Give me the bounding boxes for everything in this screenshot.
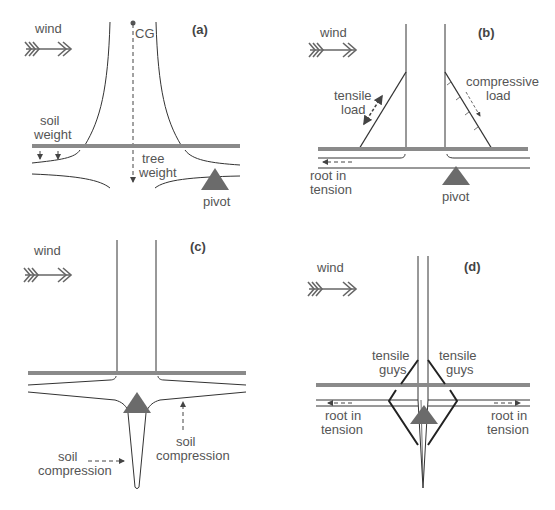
root-left-lower bbox=[28, 392, 128, 410]
tensile-guys-label: guys bbox=[446, 362, 474, 377]
compressive-load-label: load bbox=[486, 88, 511, 103]
pivot-label: pivot bbox=[203, 194, 231, 209]
panel-c: (c) wind soil compression soil compressi… bbox=[24, 239, 246, 489]
wind-arrow-icon bbox=[25, 42, 71, 56]
ground-surface bbox=[28, 371, 246, 375]
panel-label-c: (c) bbox=[190, 239, 206, 254]
soil-weight-label: soil bbox=[40, 113, 60, 128]
compressive-load-label: compressive bbox=[466, 74, 539, 89]
panel-a: (a) wind CG soil weight tree weight pivo… bbox=[25, 21, 240, 210]
wind-label: wind bbox=[319, 25, 347, 40]
soil-compression-label: soil bbox=[176, 434, 196, 449]
wind-label: wind bbox=[316, 260, 344, 275]
panel-label-b: (b) bbox=[478, 25, 495, 40]
wind-arrow-icon bbox=[24, 268, 71, 282]
tree-weight-label: weight bbox=[138, 165, 177, 180]
tensile-guys-label: guys bbox=[379, 362, 407, 377]
panel-b: (b) wind tensile load compressive load r… bbox=[309, 24, 539, 204]
tensile-load-label: load bbox=[341, 102, 366, 117]
root-tension-label: root in bbox=[310, 168, 346, 183]
trunk-left-edge bbox=[85, 22, 110, 145]
root-left-upper bbox=[28, 376, 116, 385]
root-left-lower bbox=[32, 174, 110, 188]
tensile-guys-label: tensile bbox=[372, 348, 410, 363]
trunk-right-edge bbox=[156, 22, 181, 145]
tensile-guys-label: tensile bbox=[439, 348, 477, 363]
root-left-upper bbox=[32, 150, 80, 163]
root-right-upper bbox=[158, 376, 246, 385]
tensile-load-label: tensile bbox=[334, 88, 372, 103]
pivot-icon bbox=[201, 168, 229, 190]
root-tension-label: root in bbox=[325, 408, 361, 423]
pivot-icon bbox=[410, 405, 438, 424]
wind-arrow-icon bbox=[309, 43, 356, 57]
soil-compression-label: compression bbox=[156, 448, 230, 463]
panel-label-a: (a) bbox=[192, 22, 208, 37]
cg-label: CG bbox=[135, 26, 155, 41]
compression-hatch bbox=[447, 82, 478, 130]
tensile-strut bbox=[359, 72, 406, 149]
ground-surface bbox=[32, 144, 240, 148]
root-right-lower bbox=[147, 392, 246, 410]
wind-label: wind bbox=[33, 243, 61, 258]
ground-surface bbox=[316, 383, 530, 387]
root-right-upper bbox=[447, 154, 530, 158]
wind-label: wind bbox=[34, 21, 62, 36]
panel-d: (d) wind tensile guys tensile guys root … bbox=[308, 256, 530, 488]
tree-anchorage-figure: (a) wind CG soil weight tree weight pivo… bbox=[0, 0, 555, 510]
pivot-icon bbox=[123, 392, 151, 413]
root-right-upper bbox=[185, 150, 240, 165]
ground-surface bbox=[318, 147, 528, 151]
root-tension-label: tension bbox=[310, 182, 352, 197]
tree-weight-label: tree bbox=[142, 151, 164, 166]
sinker-root bbox=[128, 413, 146, 489]
root-tension-label: tension bbox=[487, 422, 529, 437]
soil-weight-label: weight bbox=[33, 127, 72, 142]
panel-label-d: (d) bbox=[464, 259, 481, 274]
root-tension-label: root in bbox=[491, 408, 527, 423]
soil-compression-label: compression bbox=[38, 463, 112, 478]
wind-arrow-icon bbox=[308, 282, 356, 296]
soil-compression-label: soil bbox=[58, 449, 78, 464]
root-tension-label: tension bbox=[321, 422, 363, 437]
pivot-icon bbox=[442, 166, 470, 185]
root-left-upper bbox=[318, 154, 405, 158]
pivot-label: pivot bbox=[442, 189, 470, 204]
